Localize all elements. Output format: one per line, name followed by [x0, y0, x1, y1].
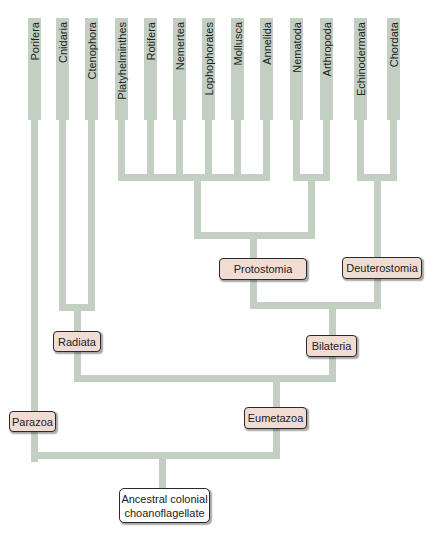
taxon-nemertea: Nemertea	[173, 18, 186, 120]
branch-ecdysozoa	[308, 174, 315, 239]
branch-mollusca	[234, 120, 241, 181]
taxon-label: Ctenophora	[85, 22, 98, 80]
branch-chordata	[390, 120, 397, 181]
branch-deuterostomia	[374, 174, 381, 309]
root-label-line1: Ancestral colonial	[120, 492, 209, 506]
branch-annelida	[263, 120, 270, 181]
branch-eumetazoa-join	[74, 375, 336, 382]
branch-arthropoda	[323, 120, 330, 181]
branch-rotifera	[147, 120, 154, 181]
taxon-chordata: Chordata	[387, 18, 400, 120]
branch-ctenophora	[88, 120, 95, 311]
branch-bilateria-join	[250, 302, 381, 309]
taxon-rotifera: Rotifera	[144, 18, 157, 120]
taxon-label: Chordata	[387, 22, 400, 67]
taxon-label: Echinodermata	[354, 22, 367, 96]
taxon-label: Arthropoda	[320, 22, 333, 76]
branch-lophophorates	[205, 120, 212, 181]
branch-root	[159, 452, 166, 492]
root-ancestor: Ancestral colonial choanoflagellate	[119, 488, 210, 523]
branch-nemertea	[176, 120, 183, 181]
branch-platyhelminthes	[118, 120, 125, 181]
branch-lophotrochozoa	[194, 174, 201, 239]
taxon-label: Nemertea	[173, 22, 186, 70]
taxon-label: Cnidaria	[56, 22, 69, 63]
taxon-label: Rotifera	[144, 22, 157, 61]
taxon-porifera: Porifera	[28, 18, 41, 120]
taxon-label: Lophophorates	[202, 22, 215, 95]
taxon-platyhelminthes: Platyhelminthes	[115, 18, 128, 120]
phylogenetic-tree: Porifera Cnidaria Ctenophora Platyhelmin…	[0, 0, 435, 534]
taxon-mollusca: Mollusca	[231, 18, 244, 120]
clade-eumetazoa: Eumetazoa	[244, 407, 307, 429]
taxon-cnidaria: Cnidaria	[56, 18, 69, 120]
clade-bilateria: Bilateria	[306, 335, 357, 357]
clade-deuterostomia: Deuterostomia	[342, 257, 422, 279]
taxon-label: Platyhelminthes	[115, 22, 128, 100]
clade-radiata: Radiata	[53, 331, 101, 352]
taxon-lophophorates: Lophophorates	[202, 18, 215, 120]
taxon-ctenophora: Ctenophora	[85, 18, 98, 120]
taxon-label: Mollusca	[231, 22, 244, 65]
root-label-line2: choanoflagellate	[120, 506, 209, 520]
taxon-annelida: Annelida	[260, 18, 273, 120]
branch-cnidaria	[59, 120, 66, 311]
taxon-nematoda: Nematoda	[290, 18, 303, 120]
taxon-label: Porifera	[28, 22, 41, 61]
branch-root-join	[31, 452, 280, 459]
taxon-label: Nematoda	[290, 22, 303, 73]
branch-echinodermata	[357, 120, 364, 181]
taxon-echinodermata: Echinodermata	[354, 18, 367, 120]
clade-parazoa: Parazoa	[9, 411, 56, 432]
branch-nematoda	[293, 120, 300, 181]
clade-protostomia: Protostomia	[219, 258, 307, 280]
taxon-arthropoda: Arthropoda	[320, 18, 333, 120]
taxon-label: Annelida	[260, 22, 273, 65]
